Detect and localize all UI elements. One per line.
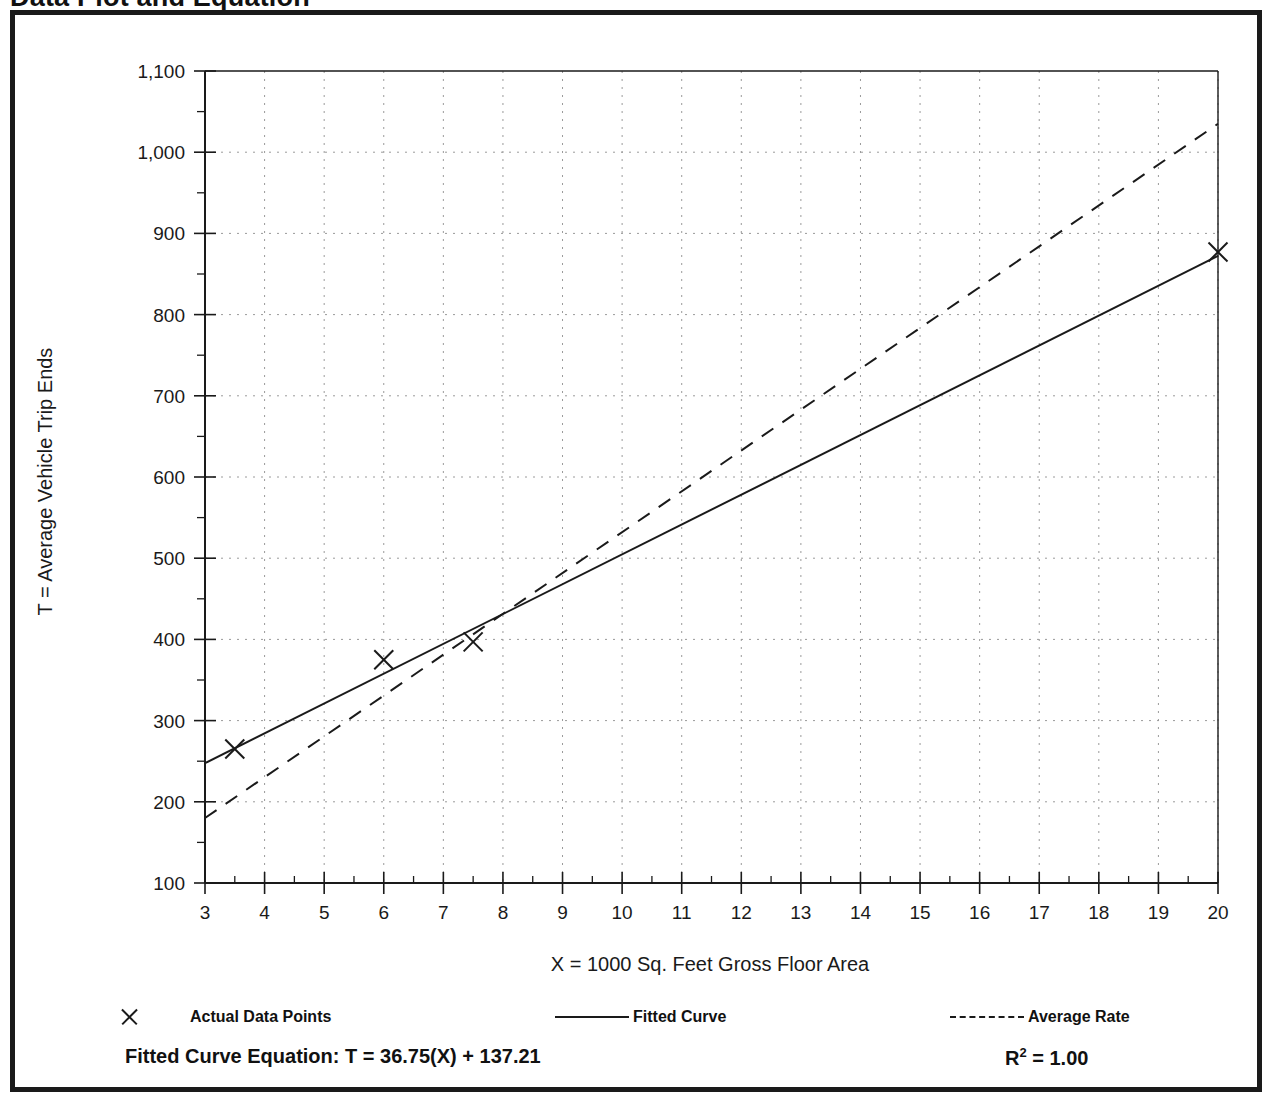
x-axis-tick-label: 4 <box>259 902 270 923</box>
x-axis-tick-label: 6 <box>378 902 389 923</box>
y-axis-tick-label: 400 <box>153 629 185 650</box>
x-marker-icon <box>112 1006 190 1028</box>
r-squared-number: = 1.00 <box>1027 1047 1089 1069</box>
x-axis-tick-label: 3 <box>200 902 211 923</box>
fitted-curve-line <box>205 256 1218 763</box>
legend-actual-data-points: Actual Data Points <box>112 1000 331 1034</box>
chart-legend: Actual Data Points Fitted Curve Average … <box>100 1000 1220 1034</box>
r-squared-exponent: 2 <box>1019 1045 1026 1060</box>
figure-frame: 1002003004005006007008009001,0001,100345… <box>10 10 1262 1092</box>
x-axis-tick-label: 14 <box>850 902 872 923</box>
y-axis-tick-label: 300 <box>153 711 185 732</box>
y-axis-tick-label: 1,000 <box>137 142 185 163</box>
y-axis-tick-label: 800 <box>153 305 185 326</box>
y-axis-tick-label: 100 <box>153 873 185 894</box>
x-axis-tick-label: 16 <box>969 902 990 923</box>
x-axis-tick-label: 5 <box>319 902 330 923</box>
x-axis-tick-label: 13 <box>790 902 811 923</box>
x-axis-tick-label: 10 <box>612 902 633 923</box>
legend-label-average-rate: Average Rate <box>1028 1008 1130 1026</box>
x-axis-tick-label: 15 <box>909 902 930 923</box>
legend-fitted-curve: Fitted Curve <box>555 1000 726 1034</box>
y-axis-tick-label: 900 <box>153 223 185 244</box>
x-axis-tick-label: 8 <box>498 902 509 923</box>
y-axis-tick-label: 200 <box>153 792 185 813</box>
y-axis-tick-label: 700 <box>153 386 185 407</box>
x-axis-tick-label: 20 <box>1207 902 1228 923</box>
legend-label-fitted-curve: Fitted Curve <box>633 1008 726 1026</box>
x-axis-title: X = 1000 Sq. Feet Gross Floor Area <box>195 953 1225 976</box>
x-axis-tick-label: 7 <box>438 902 449 923</box>
y-axis-tick-label: 1,100 <box>137 61 185 82</box>
r-squared-prefix: R <box>1005 1047 1019 1069</box>
y-axis-tick-label: 500 <box>153 548 185 569</box>
r-squared-value: R2 = 1.00 <box>1005 1045 1088 1070</box>
plot-svg: 1002003004005006007008009001,0001,100345… <box>15 15 1267 1097</box>
x-axis-tick-label: 12 <box>731 902 752 923</box>
x-axis-tick-label: 9 <box>557 902 568 923</box>
data-point-marker <box>374 650 393 669</box>
x-axis-tick-label: 18 <box>1088 902 1109 923</box>
equation-row: Fitted Curve Equation: T = 36.75(X) + 13… <box>100 1045 1220 1081</box>
dashed-line-icon <box>950 1006 1028 1028</box>
fitted-curve-equation: Fitted Curve Equation: T = 36.75(X) + 13… <box>125 1045 541 1068</box>
x-axis-tick-label: 17 <box>1029 902 1050 923</box>
average-rate-line <box>205 124 1218 818</box>
chart-area: 1002003004005006007008009001,0001,100345… <box>15 15 1267 1097</box>
legend-average-rate: Average Rate <box>950 1000 1130 1034</box>
x-axis-tick-label: 11 <box>672 902 692 923</box>
solid-line-icon <box>555 1006 633 1028</box>
y-axis-title: T = Average Vehicle Trip Ends <box>34 272 57 692</box>
y-axis-tick-label: 600 <box>153 467 185 488</box>
legend-label-actual-data-points: Actual Data Points <box>190 1008 331 1026</box>
x-axis-tick-label: 19 <box>1148 902 1169 923</box>
data-point-marker <box>464 632 483 651</box>
